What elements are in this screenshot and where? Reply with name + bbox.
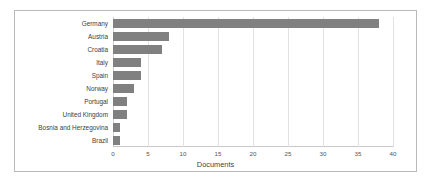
category-label: Austria [88,30,108,43]
bar[interactable] [113,45,162,54]
category-axis: GermanyAustriaCroatiaItalySpainNorwayPor… [15,17,112,147]
x-tick-label: 40 [390,149,397,159]
bar[interactable] [113,71,141,80]
category-label: Italy [96,56,108,69]
category-label: Bosnia and Herzegovina [38,121,108,134]
plot-area [113,17,393,147]
gridline [393,17,394,147]
bar[interactable] [113,97,127,106]
bar-row[interactable] [113,17,393,30]
bar-row[interactable] [113,56,393,69]
bar[interactable] [113,19,379,28]
x-tick-label: 0 [111,149,114,159]
category-label: Portugal [84,95,108,108]
bar[interactable] [113,136,120,145]
category-label: Croatia [87,43,108,56]
category-label: Norway [86,82,108,95]
plot-wrapper: GermanyAustriaCroatiaItalySpainNorwayPor… [15,11,416,171]
x-tick-label: 35 [355,149,362,159]
category-label: Germany [82,17,108,30]
x-tick-label: 25 [285,149,292,159]
bar[interactable] [113,58,141,67]
bar[interactable] [113,110,127,119]
x-tick-label: 10 [180,149,187,159]
bar-row[interactable] [113,134,393,147]
bar-row[interactable] [113,82,393,95]
bar-chart-figure: GermanyAustriaCroatiaItalySpainNorwayPor… [14,10,417,172]
x-tick-label: 15 [215,149,222,159]
bar-row[interactable] [113,95,393,108]
bar[interactable] [113,84,134,93]
x-axis-title: Documents [15,160,416,169]
category-label: Spain [92,69,108,82]
category-label: United Kingdom [63,108,108,121]
category-label: Brazil [92,134,108,147]
bar-row[interactable] [113,30,393,43]
x-tick-label: 30 [320,149,327,159]
bar-row[interactable] [113,43,393,56]
bar-row[interactable] [113,69,393,82]
bar-row[interactable] [113,108,393,121]
x-tick-label: 5 [146,149,149,159]
bar[interactable] [113,123,120,132]
bar-row[interactable] [113,121,393,134]
x-tick-label: 20 [250,149,257,159]
bar[interactable] [113,32,169,41]
